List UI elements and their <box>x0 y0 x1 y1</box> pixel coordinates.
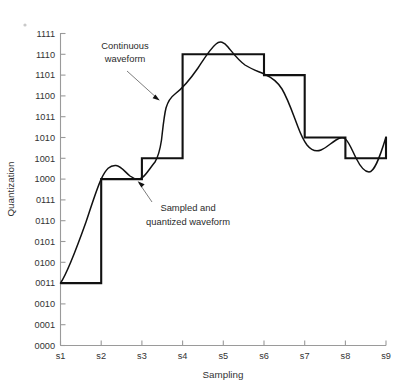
chart-background <box>0 0 397 391</box>
y-tick-label-10: 1010 <box>35 133 55 143</box>
x-tick-label-s1: s1 <box>56 351 66 361</box>
y-tick-label-1: 0001 <box>35 320 55 330</box>
y-tick-label-14: 1110 <box>36 50 55 60</box>
y-tick-label-5: 0101 <box>35 237 55 247</box>
quantization-sampling-chart: 0000 0001 0010 0011 0100 0101 0110 0111 … <box>0 0 397 391</box>
x-tick-label-s4: s4 <box>178 351 188 361</box>
x-tick-label-s7: s7 <box>300 351 310 361</box>
y-axis-title: Quantization <box>5 161 16 216</box>
chart-svg: 0000 0001 0010 0011 0100 0101 0110 0111 … <box>0 0 397 391</box>
x-tick-label-s3: s3 <box>137 351 147 361</box>
y-tick-label-12: 1100 <box>35 91 55 101</box>
scan-artifact-speck <box>23 23 26 26</box>
y-tick-label-7: 0111 <box>36 195 55 205</box>
y-tick-label-3: 0011 <box>35 278 55 288</box>
x-tick-label-s8: s8 <box>341 351 351 361</box>
sampled-quantized-annotation-line1: Sampled and <box>160 202 215 213</box>
continuous-waveform-annotation-line1: Continuous <box>101 40 149 51</box>
y-tick-label-4: 0100 <box>35 258 55 268</box>
y-tick-label-2: 0010 <box>35 299 55 309</box>
x-tick-label-s2: s2 <box>96 351 106 361</box>
y-tick-label-0: 0000 <box>35 341 55 351</box>
y-tick-label-15: 1111 <box>37 29 55 39</box>
continuous-waveform-annotation-line2: waveform <box>104 53 146 64</box>
y-tick-label-11: 1011 <box>35 112 55 122</box>
y-tick-label-13: 1101 <box>35 70 55 80</box>
y-tick-label-9: 1001 <box>35 154 55 164</box>
x-tick-label-s6: s6 <box>259 351 269 361</box>
x-axis-tick-labels: s1 s2 s3 s4 s5 s6 s7 s8 s9 <box>56 351 391 361</box>
x-axis-title: Sampling <box>203 369 244 380</box>
y-tick-label-8: 1000 <box>35 174 55 184</box>
x-tick-label-s5: s5 <box>218 351 228 361</box>
y-tick-label-6: 0110 <box>35 216 55 226</box>
sampled-quantized-annotation-line2: quantized waveform <box>146 216 230 227</box>
x-tick-label-s9: s9 <box>381 351 391 361</box>
